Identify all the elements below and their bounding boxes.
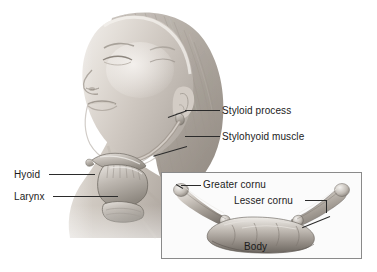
leader-stylohyoid-muscle-angled: [153, 146, 187, 157]
label-hyoid: Hyoid: [14, 169, 40, 180]
leader-greater-cornu: [181, 185, 201, 186]
leader-larynx: [53, 196, 118, 197]
label-stylohyoid-muscle: Stylohyoid muscle: [222, 131, 304, 142]
leader-lesser-cornu-horizontal: [305, 200, 327, 201]
styloid-process-illustration: [176, 113, 185, 125]
leader-stylohyoid-muscle-horizontal: [185, 136, 220, 137]
label-styloid-process: Styloid process: [222, 105, 291, 116]
label-body: Body: [244, 241, 267, 252]
larynx-illustration: [98, 165, 148, 223]
leader-hyoid: [49, 174, 95, 175]
label-greater-cornu: Greater cornu: [203, 179, 266, 190]
label-lesser-cornu: Lesser cornu: [234, 195, 293, 206]
anatomy-figure: Styloid process Stylohyoid muscle Hyoid …: [0, 0, 377, 272]
hyoid-bone-inset-panel: Greater cornu Lesser cornu Body: [161, 172, 362, 259]
face: [82, 16, 194, 166]
leader-styloid-process-angled: [168, 110, 187, 118]
leader-styloid-process-horizontal: [185, 110, 220, 111]
label-larynx: Larynx: [14, 191, 45, 202]
leader-lesser-cornu-vertical: [326, 200, 327, 213]
hyoid-bone-illustration: [86, 153, 146, 171]
